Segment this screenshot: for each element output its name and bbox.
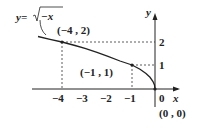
x-tick-minus2: −2 [100, 92, 112, 104]
x-tick-minus1: −1 [124, 92, 136, 104]
sqrt-curve [38, 37, 155, 90]
function-graph: y= −x (−4 , 2) (−1 , 1) (0 , 0) 2 1 −4 −… [0, 0, 205, 131]
point-label-minus4-2: (−4 , 2) [57, 24, 90, 37]
point-minus1-1 [130, 63, 133, 66]
function-label-radicand: −x [41, 10, 54, 22]
y-tick-1: 1 [159, 59, 165, 71]
point-label-origin: (0 , 0) [159, 107, 186, 120]
x-axis-arrow [173, 87, 180, 92]
origin-label: 0 [159, 92, 165, 104]
y-tick-2: 2 [159, 36, 165, 48]
x-tick-minus4: −4 [52, 92, 64, 104]
x-axis-label: x [172, 92, 179, 104]
point-minus4-2 [60, 40, 63, 43]
x-tick-minus3: −3 [76, 92, 88, 104]
point-origin [153, 87, 156, 90]
y-axis-label: y [144, 6, 151, 18]
y-axis-arrow [153, 13, 158, 20]
point-label-minus1-1: (−1 , 1) [80, 66, 113, 79]
label-leader [40, 20, 46, 35]
function-label-lhs: y= [14, 11, 27, 23]
